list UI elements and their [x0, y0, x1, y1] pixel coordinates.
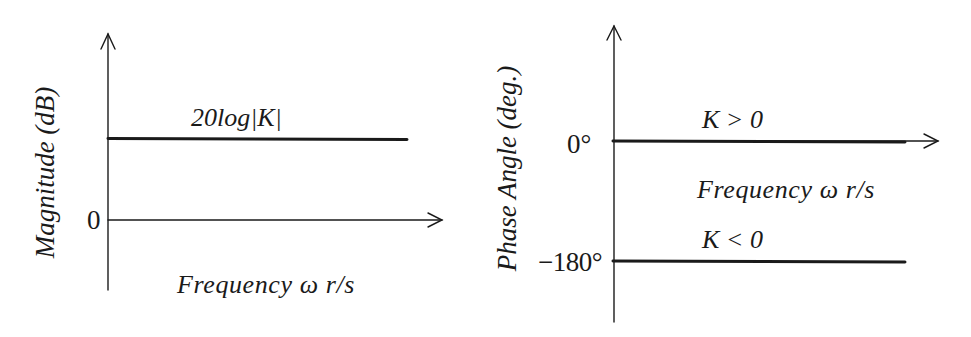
magnitude-gain-line: [108, 139, 407, 140]
magnitude-zero-tick: 0: [87, 207, 101, 234]
magnitude-y-axis-label: Magnitude (dB): [32, 68, 59, 278]
magnitude-plot: [101, 34, 442, 290]
phase-positive-k-line: [613, 141, 905, 142]
phase-plot: [607, 26, 938, 322]
magnitude-line-label: 20log|K|: [191, 105, 282, 131]
magnitude-x-axis-label: Frequency ω r/s: [177, 272, 355, 298]
phase-positive-k-label: K > 0: [702, 107, 763, 133]
phase-y-axis-label: Phase Angle (deg.): [494, 59, 521, 279]
phase-tick-neg180: −180°: [538, 249, 602, 276]
phase-negative-k-line: [613, 261, 905, 262]
phase-negative-k-label: K < 0: [702, 227, 763, 253]
bode-plots-canvas: [0, 0, 971, 337]
phase-tick-zero: 0°: [567, 131, 591, 158]
phase-x-axis-label: Frequency ω r/s: [697, 177, 875, 203]
